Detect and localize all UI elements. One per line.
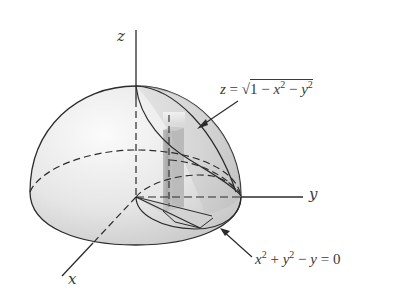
cylinder-arrowhead <box>220 228 230 236</box>
x-axis <box>62 243 93 276</box>
cylinder-equation-label: x2 + y2 − y = 0 <box>255 252 340 267</box>
surface-equation-label: z = √1 − x2 − y2 <box>220 82 313 97</box>
surface-eq-radicand: 1 − x2 − y2 <box>250 79 313 97</box>
y-axis-label: y <box>309 187 317 202</box>
figure-canvas: z y x z = √1 − x2 − y2 x2 + y2 − y = 0 <box>0 0 400 307</box>
surface-eq-lhs: z <box>220 81 226 97</box>
x-axis-label: x <box>68 272 76 287</box>
cylinder-arrow-line <box>223 231 252 257</box>
surface-eq-equals: = <box>230 81 238 97</box>
z-axis-label: z <box>117 29 125 44</box>
sqrt-symbol: √ <box>242 81 250 97</box>
